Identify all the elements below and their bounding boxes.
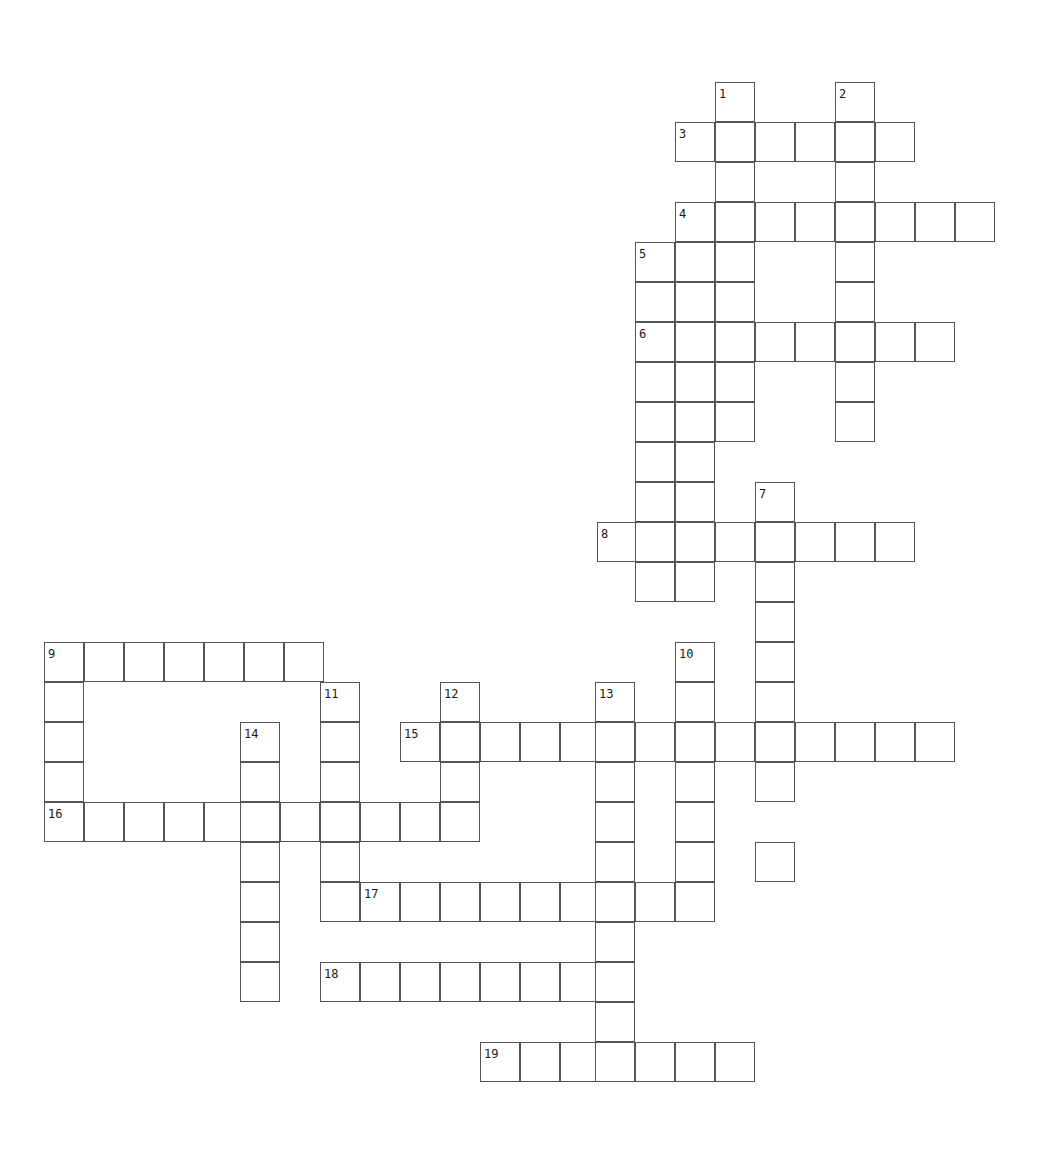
crossword-cell[interactable]	[244, 642, 284, 682]
crossword-cell[interactable]	[795, 322, 835, 362]
crossword-cell[interactable]	[440, 682, 480, 722]
crossword-cell[interactable]	[164, 642, 204, 682]
crossword-cell[interactable]	[715, 282, 755, 322]
crossword-cell[interactable]	[164, 802, 204, 842]
crossword-cell[interactable]	[675, 722, 715, 762]
crossword-cell[interactable]	[635, 722, 675, 762]
crossword-cell[interactable]	[595, 882, 635, 922]
crossword-cell[interactable]	[440, 962, 480, 1002]
crossword-cell[interactable]	[284, 642, 324, 682]
crossword-cell[interactable]	[595, 722, 635, 762]
crossword-cell[interactable]	[755, 322, 795, 362]
crossword-cell[interactable]	[715, 122, 755, 162]
crossword-cell[interactable]	[755, 682, 795, 722]
crossword-cell[interactable]	[635, 282, 675, 322]
crossword-cell[interactable]	[715, 322, 755, 362]
crossword-cell[interactable]	[44, 682, 84, 722]
crossword-cell[interactable]	[595, 682, 635, 722]
crossword-cell[interactable]	[835, 362, 875, 402]
crossword-cell[interactable]	[635, 402, 675, 442]
crossword-cell[interactable]	[755, 562, 795, 602]
crossword-cell[interactable]	[755, 202, 795, 242]
crossword-cell[interactable]	[44, 762, 84, 802]
crossword-cell[interactable]	[675, 282, 715, 322]
crossword-cell[interactable]	[400, 882, 440, 922]
crossword-cell[interactable]	[675, 122, 715, 162]
crossword-cell[interactable]	[400, 722, 440, 762]
crossword-cell[interactable]	[320, 802, 360, 842]
crossword-cell[interactable]	[480, 882, 520, 922]
crossword-cell[interactable]	[675, 442, 715, 482]
crossword-cell[interactable]	[560, 882, 600, 922]
crossword-cell[interactable]	[360, 882, 400, 922]
crossword-cell[interactable]	[675, 842, 715, 882]
crossword-cell[interactable]	[675, 522, 715, 562]
crossword-cell[interactable]	[795, 522, 835, 562]
crossword-cell[interactable]	[795, 722, 835, 762]
crossword-cell[interactable]	[84, 642, 124, 682]
crossword-cell[interactable]	[320, 722, 360, 762]
crossword-cell[interactable]	[675, 202, 715, 242]
crossword-cell[interactable]	[835, 282, 875, 322]
crossword-cell[interactable]	[835, 322, 875, 362]
crossword-cell[interactable]	[835, 82, 875, 122]
crossword-cell[interactable]	[675, 402, 715, 442]
crossword-cell[interactable]	[875, 722, 915, 762]
crossword-cell[interactable]	[480, 962, 520, 1002]
crossword-cell[interactable]	[480, 1042, 520, 1082]
crossword-cell[interactable]	[240, 842, 280, 882]
crossword-grid[interactable]: 12345678910111213141516171819	[0, 0, 1057, 1168]
crossword-cell[interactable]	[675, 562, 715, 602]
crossword-cell[interactable]	[595, 962, 635, 1002]
crossword-cell[interactable]	[440, 802, 480, 842]
crossword-cell[interactable]	[635, 562, 675, 602]
crossword-cell[interactable]	[795, 122, 835, 162]
crossword-cell[interactable]	[320, 842, 360, 882]
crossword-cell[interactable]	[675, 482, 715, 522]
crossword-cell[interactable]	[360, 802, 400, 842]
crossword-cell[interactable]	[240, 962, 280, 1002]
crossword-cell[interactable]	[835, 162, 875, 202]
crossword-cell[interactable]	[240, 882, 280, 922]
crossword-cell[interactable]	[560, 962, 600, 1002]
crossword-cell[interactable]	[440, 762, 480, 802]
crossword-cell[interactable]	[915, 202, 955, 242]
crossword-cell[interactable]	[915, 322, 955, 362]
crossword-cell[interactable]	[675, 762, 715, 802]
crossword-cell[interactable]	[675, 682, 715, 722]
crossword-cell[interactable]	[360, 962, 400, 1002]
crossword-cell[interactable]	[755, 522, 795, 562]
crossword-cell[interactable]	[320, 882, 360, 922]
crossword-cell[interactable]	[875, 122, 915, 162]
crossword-cell[interactable]	[320, 962, 360, 1002]
crossword-cell[interactable]	[84, 802, 124, 842]
crossword-cell[interactable]	[875, 202, 915, 242]
crossword-cell[interactable]	[915, 722, 955, 762]
crossword-cell[interactable]	[400, 962, 440, 1002]
crossword-cell[interactable]	[715, 522, 755, 562]
crossword-cell[interactable]	[520, 962, 560, 1002]
crossword-cell[interactable]	[240, 802, 280, 842]
crossword-cell[interactable]	[560, 1042, 600, 1082]
crossword-cell[interactable]	[635, 1042, 675, 1082]
crossword-cell[interactable]	[240, 762, 280, 802]
crossword-cell[interactable]	[480, 722, 520, 762]
crossword-cell[interactable]	[955, 202, 995, 242]
crossword-cell[interactable]	[875, 522, 915, 562]
crossword-cell[interactable]	[595, 922, 635, 962]
crossword-cell[interactable]	[635, 522, 675, 562]
crossword-cell[interactable]	[715, 362, 755, 402]
crossword-cell[interactable]	[44, 802, 84, 842]
crossword-cell[interactable]	[520, 882, 560, 922]
crossword-cell[interactable]	[520, 1042, 560, 1082]
crossword-cell[interactable]	[635, 442, 675, 482]
crossword-cell[interactable]	[595, 842, 635, 882]
crossword-cell[interactable]	[715, 402, 755, 442]
crossword-cell[interactable]	[204, 642, 244, 682]
crossword-cell[interactable]	[204, 802, 244, 842]
crossword-cell[interactable]	[440, 882, 480, 922]
crossword-cell[interactable]	[715, 162, 755, 202]
crossword-cell[interactable]	[320, 682, 360, 722]
crossword-cell[interactable]	[675, 802, 715, 842]
crossword-cell[interactable]	[560, 722, 600, 762]
